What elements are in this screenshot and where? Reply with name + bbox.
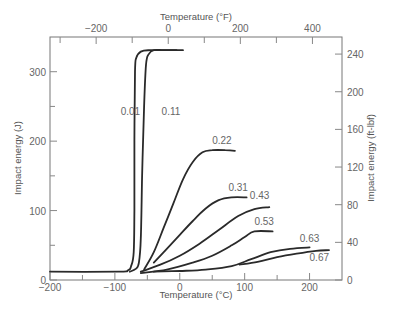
curve-0-11 <box>130 50 177 272</box>
x-tick-label: 200 <box>301 282 318 293</box>
y2-tick-label: 120 <box>347 162 364 173</box>
curve-0-31 <box>154 197 247 262</box>
x2-tick-label: −200 <box>85 23 108 34</box>
curve-label: 0.43 <box>250 190 270 201</box>
y2-tick-label: 40 <box>347 237 359 248</box>
curve-0-63 <box>154 247 310 271</box>
y-tick-label: 300 <box>29 67 46 78</box>
y2-tick-label: 80 <box>347 200 359 211</box>
y-tick-label: 0 <box>40 275 46 286</box>
curve-label: 0.63 <box>300 233 320 244</box>
y-tick-label: 200 <box>29 136 46 147</box>
y2-tick-label: 200 <box>347 87 364 98</box>
y-tick-label: 100 <box>29 206 46 217</box>
x2-tick-label: 200 <box>232 23 249 34</box>
x-tick-label: 100 <box>236 282 253 293</box>
impact-energy-chart: −200−10001002000100200300−20002004000408… <box>0 0 394 317</box>
curve-label: 0.31 <box>228 182 248 193</box>
curve-label: 0.22 <box>212 135 232 146</box>
x2-axis-title: Temperature (°F) <box>160 11 232 22</box>
y2-axis-title: Impact energy (ft-lbf) <box>365 114 376 202</box>
y2-tick-label: 0 <box>347 275 353 286</box>
curve-labels: 0.010.110.220.310.430.530.630.67 <box>121 106 330 262</box>
curve-label: 0.01 <box>121 106 141 117</box>
data-curves <box>50 50 329 273</box>
y-axis-title: Impact energy (J) <box>12 121 23 195</box>
x-axis-title: Temperature (°C) <box>160 289 233 300</box>
y2-tick-label: 160 <box>347 124 364 135</box>
curve-label: 0.67 <box>310 252 330 263</box>
x2-tick-label: 0 <box>165 23 171 34</box>
curve-0-01 <box>50 50 183 272</box>
x-tick-label: −100 <box>104 282 127 293</box>
curve-label: 0.11 <box>162 106 181 117</box>
x2-tick-label: 400 <box>304 23 321 34</box>
curve-label: 0.53 <box>254 216 274 227</box>
y2-tick-label: 240 <box>347 49 364 60</box>
